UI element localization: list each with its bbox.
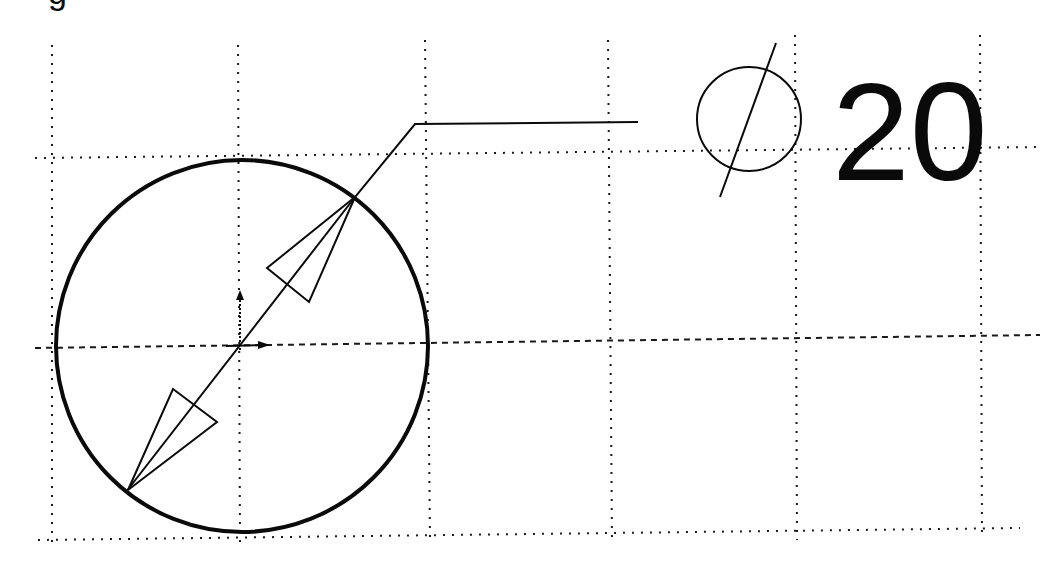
dimension-leader-line	[126, 122, 638, 492]
diameter-dimension	[126, 122, 638, 492]
clipped-text-fragment: g	[48, 0, 67, 11]
grid-vertical-line	[608, 40, 612, 540]
arrowhead-lower-icon	[128, 389, 217, 490]
origin-marker-icon	[226, 290, 270, 350]
dimension-value-text: 20	[832, 53, 988, 210]
grid-horizontal-line	[38, 528, 1020, 540]
diameter-symbol-icon	[697, 43, 801, 197]
cad-drawing-canvas: g 20	[0, 0, 1040, 576]
grid-vertical-line	[795, 35, 797, 540]
grid-vertical-line	[425, 40, 430, 540]
center-axis-line	[35, 335, 1040, 348]
